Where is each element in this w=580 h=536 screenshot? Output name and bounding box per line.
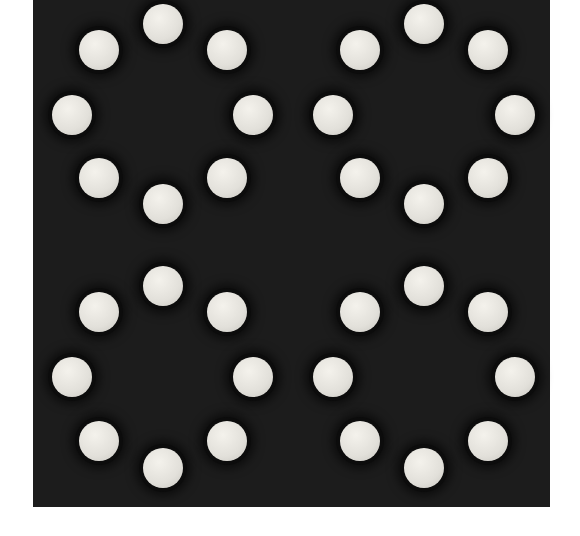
hole-top-left <box>79 158 119 198</box>
hole-top-right <box>495 95 535 135</box>
hole-top-left <box>79 30 119 70</box>
hole-top-left <box>143 4 183 44</box>
hole-top-right <box>404 184 444 224</box>
hole-top-right <box>340 30 380 70</box>
hole-top-left <box>143 184 183 224</box>
hole-bottom-left <box>52 357 92 397</box>
hole-top-left <box>233 95 273 135</box>
hole-top-right <box>468 158 508 198</box>
hole-top-left <box>207 30 247 70</box>
hole-bottom-right <box>495 357 535 397</box>
hole-bottom-left <box>207 421 247 461</box>
hole-bottom-right <box>404 448 444 488</box>
hole-bottom-right <box>340 421 380 461</box>
hole-bottom-left <box>233 357 273 397</box>
hole-bottom-right <box>468 421 508 461</box>
hole-bottom-left <box>143 448 183 488</box>
hole-top-right <box>313 95 353 135</box>
hole-top-right <box>404 4 444 44</box>
hole-top-right <box>468 30 508 70</box>
hole-bottom-right <box>468 292 508 332</box>
hole-bottom-right <box>340 292 380 332</box>
hole-top-left <box>52 95 92 135</box>
hole-bottom-left <box>79 421 119 461</box>
hole-top-left <box>207 158 247 198</box>
hole-bottom-left <box>79 292 119 332</box>
hole-bottom-right <box>404 266 444 306</box>
hole-bottom-left <box>207 292 247 332</box>
hole-top-right <box>340 158 380 198</box>
hole-bottom-right <box>313 357 353 397</box>
hole-bottom-left <box>143 266 183 306</box>
